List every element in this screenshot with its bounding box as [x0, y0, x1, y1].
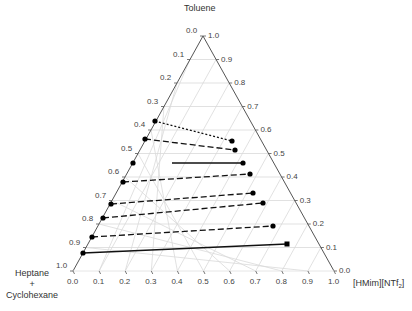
- bottom-tick-label: 0.7: [250, 278, 261, 286]
- grid-line: [256, 201, 295, 272]
- tick-mark: [73, 271, 75, 274]
- tick-mark: [204, 271, 206, 274]
- tick-mark: [282, 271, 284, 274]
- extract-point: [229, 138, 234, 143]
- tick-mark: [125, 271, 127, 274]
- right-tick-label: 0.8: [234, 79, 245, 87]
- left-tick-label: 0.5: [121, 145, 132, 153]
- bottom-tick-label: 0.4: [171, 278, 182, 286]
- left-tick-label: 0.9: [69, 239, 80, 247]
- tick-mark: [334, 271, 336, 274]
- bottom-tick-label: 0.9: [302, 278, 313, 286]
- corner-label-heptane-cyclohexane: Heptane + Cyclohexane: [6, 268, 58, 301]
- grid-line: [308, 248, 321, 272]
- right-tick-label: 0.3: [300, 197, 311, 205]
- bottom-tick-label: 0.8: [276, 278, 287, 286]
- left-tick-label: 1.0: [56, 262, 67, 270]
- left-tick-label: 0.8: [82, 215, 93, 223]
- extract-point: [270, 223, 275, 228]
- left-tick-label: 0.2: [160, 74, 171, 82]
- right-tick-label: 0.5: [274, 150, 285, 158]
- extract-point: [260, 200, 265, 205]
- left-tick-label: 0.1: [173, 51, 184, 59]
- tick-mark: [308, 271, 310, 274]
- bottom-tick-label: 0.5: [198, 278, 209, 286]
- il-bracket: ]: [402, 278, 405, 288]
- raffinate-point: [120, 179, 125, 184]
- raffinate-point: [142, 136, 147, 141]
- bottom-tick-label: 0.2: [119, 278, 130, 286]
- tie-line: [123, 174, 250, 182]
- right-tick-label: 0.7: [247, 103, 258, 111]
- extract-point: [285, 242, 290, 247]
- right-tick-label: 0.6: [260, 126, 271, 134]
- raffinate-point: [89, 234, 94, 239]
- raffinate-point: [80, 250, 85, 255]
- corner-label-line: Heptane: [6, 268, 58, 279]
- left-tick-label: 0.6: [108, 168, 119, 176]
- il-name: [HMim][NTf: [353, 278, 399, 288]
- tie-line: [155, 121, 232, 141]
- right-tick-label: 1.0: [208, 32, 219, 40]
- tick-mark: [230, 271, 232, 274]
- corner-label-line: +: [6, 279, 58, 290]
- raffinate-point: [108, 201, 113, 206]
- left-tick-label: 0.0: [186, 27, 197, 35]
- corner-label-ionic-liquid: [HMim][NTf2]: [353, 279, 404, 289]
- right-tick-label: 0.0: [339, 267, 350, 275]
- right-tick-label: 0.9: [221, 56, 232, 64]
- tick-mark: [99, 271, 101, 274]
- extract-point: [247, 171, 252, 176]
- left-tick-label: 0.3: [147, 98, 158, 106]
- left-tick-label: 0.7: [95, 192, 106, 200]
- extract-point: [232, 147, 237, 152]
- right-tick-label: 0.4: [287, 173, 298, 181]
- tick-mark: [177, 271, 179, 274]
- bottom-tick-label: 0.3: [145, 278, 156, 286]
- apex-label-toluene: Toluene: [184, 4, 216, 13]
- grid-line: [112, 201, 256, 272]
- bottom-tick-label: 0.6: [224, 278, 235, 286]
- bottom-tick-label: 0.0: [67, 278, 78, 286]
- left-tick-label: 0.4: [134, 121, 145, 129]
- bottom-tick-label: 0.1: [93, 278, 104, 286]
- extract-point: [250, 190, 255, 195]
- corner-label-line: Cyclohexane: [6, 290, 58, 301]
- raffinate-point: [152, 118, 157, 123]
- data-point: [130, 160, 135, 165]
- bottom-tick-label: 1.0: [328, 278, 339, 286]
- raffinate-point: [100, 215, 105, 220]
- tick-mark: [151, 271, 153, 274]
- tick-mark: [256, 271, 258, 274]
- right-tick-label: 0.1: [326, 244, 337, 252]
- extract-point: [240, 160, 245, 165]
- right-tick-label: 0.2: [313, 220, 324, 228]
